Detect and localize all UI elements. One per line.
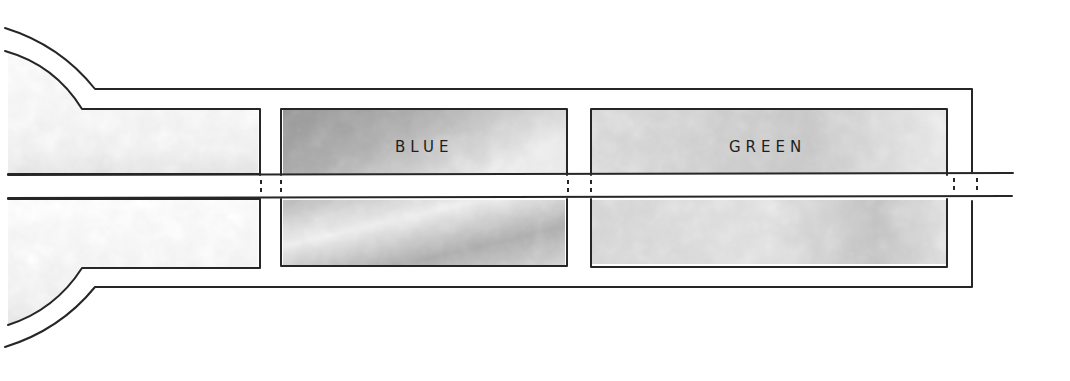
left-bulb-chamber xyxy=(8,50,258,325)
blue-chamber-label: BLUE xyxy=(395,138,453,156)
diagram-canvas: BLUE GREEN xyxy=(0,0,1070,381)
ink-outlines xyxy=(5,28,1013,347)
green-chamber xyxy=(592,110,946,264)
channel-barriers xyxy=(261,178,977,196)
green-chamber-label: GREEN xyxy=(729,138,806,156)
blue-chamber xyxy=(283,110,566,266)
